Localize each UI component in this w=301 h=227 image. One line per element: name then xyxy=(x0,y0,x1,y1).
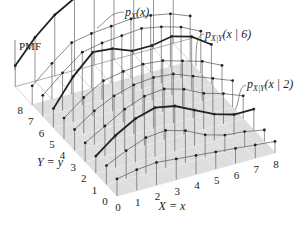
pmf-point xyxy=(73,128,76,131)
pmf-point xyxy=(114,134,117,137)
pmf-point xyxy=(51,62,54,65)
pmf-point xyxy=(70,41,73,44)
pmf-point xyxy=(84,141,87,144)
pmf-point xyxy=(172,73,175,76)
pmf-point xyxy=(31,84,34,87)
pmf-point xyxy=(72,75,75,78)
x-tick-label: 3 xyxy=(175,185,181,197)
pmf-point xyxy=(110,25,113,28)
pmf-point xyxy=(221,64,224,67)
pmf-point xyxy=(123,108,126,111)
pmf-point xyxy=(154,106,157,109)
pmf-point xyxy=(189,15,192,18)
pmf-point xyxy=(111,47,114,50)
pmf-point xyxy=(213,113,216,116)
pmf-point xyxy=(214,151,217,154)
joint-pmf-diagram: 012345678012345678X = xY = yPMFpX(x)pX|Y… xyxy=(0,0,301,227)
pmf-point xyxy=(263,129,266,132)
pmf-point xyxy=(145,136,148,139)
pmf-3d-plot: 012345678012345678X = xY = yPMFpX(x)pX|Y… xyxy=(0,0,301,227)
pmf-point xyxy=(143,95,146,98)
y-axis-title: Y = y xyxy=(37,155,64,169)
pmf-point xyxy=(202,92,205,95)
pmf-point xyxy=(82,96,85,99)
pmf-point xyxy=(192,75,195,78)
y-tick-label: 1 xyxy=(92,184,98,196)
pmf-point xyxy=(252,108,255,111)
pmf-point xyxy=(210,43,213,46)
pmf-point xyxy=(254,144,257,147)
pmf-point xyxy=(131,50,134,53)
pmf-point xyxy=(204,133,207,136)
pmf-point xyxy=(149,14,152,17)
pmf-point xyxy=(181,60,184,63)
pmf-point xyxy=(142,63,145,66)
y-tick-label: 8 xyxy=(17,104,23,116)
pmf-point xyxy=(231,79,234,82)
pmf-point xyxy=(195,154,198,157)
pmf-point xyxy=(105,164,108,167)
pmf-point xyxy=(243,130,246,133)
pmf-point xyxy=(61,71,64,74)
pmf-label: PMF xyxy=(19,40,41,52)
pmf-point xyxy=(193,109,196,112)
conditional-label-y2: pX|Y(x | 2) xyxy=(246,77,293,93)
pmf-point xyxy=(160,25,163,28)
pmf-point xyxy=(92,51,95,54)
pmf-point xyxy=(222,92,225,95)
projection-guide xyxy=(153,49,170,67)
y-tick-label: 5 xyxy=(49,138,55,150)
pmf-point xyxy=(122,70,125,73)
pmf-point xyxy=(161,59,164,62)
conditional-label-y6: pX|Y(x | 6) xyxy=(204,27,251,43)
pmf-point xyxy=(135,168,138,171)
y-tick-label: 0 xyxy=(102,195,108,207)
pmf-point xyxy=(81,51,84,54)
pmf-point xyxy=(140,27,143,30)
pmf-point xyxy=(173,105,176,108)
y-tick-label: 2 xyxy=(81,172,87,184)
pmf-point xyxy=(132,83,135,86)
y-tick-label: 6 xyxy=(39,127,45,139)
pmf-point xyxy=(63,117,66,120)
pmf-point xyxy=(169,12,172,15)
pmf-point xyxy=(152,76,155,79)
x-axis-title: X = x xyxy=(158,199,186,213)
x-tick-label: 4 xyxy=(194,179,200,191)
projection-guide xyxy=(15,87,32,105)
x-tick-label: 0 xyxy=(115,201,121,213)
pmf-point xyxy=(171,35,174,38)
pmf-point xyxy=(180,26,183,29)
pmf-point xyxy=(90,32,93,35)
pmf-point xyxy=(41,94,44,97)
pmf-point xyxy=(113,95,116,98)
pmf-point xyxy=(175,158,178,161)
pmf-point xyxy=(274,140,277,143)
marginal-point xyxy=(53,14,56,17)
pmf-point xyxy=(199,30,202,33)
marginal-point xyxy=(34,36,37,39)
pmf-point xyxy=(93,109,96,112)
x-tick-label: 1 xyxy=(135,196,141,208)
marginal-label: pX(x) xyxy=(124,5,149,21)
pmf-point xyxy=(125,149,128,152)
pmf-point xyxy=(104,125,107,128)
pmf-point xyxy=(233,113,236,116)
pmf-point xyxy=(211,77,214,80)
projection-guide xyxy=(173,43,190,61)
x-tick-label: 7 xyxy=(254,163,260,175)
cond2-leader-line xyxy=(235,85,246,110)
pmf-point xyxy=(183,88,186,91)
pmf-point xyxy=(190,35,193,38)
pmf-point xyxy=(242,94,245,97)
y-tick-label: 3 xyxy=(70,161,76,173)
pmf-point xyxy=(120,34,123,37)
pmf-point xyxy=(134,117,137,120)
pmf-point xyxy=(234,147,237,150)
pmf-point xyxy=(101,42,104,45)
x-tick-label: 6 xyxy=(234,169,240,181)
projection-guide xyxy=(35,81,52,99)
pmf-point xyxy=(155,161,158,164)
pmf-point xyxy=(163,88,166,91)
pmf-point xyxy=(201,60,204,63)
